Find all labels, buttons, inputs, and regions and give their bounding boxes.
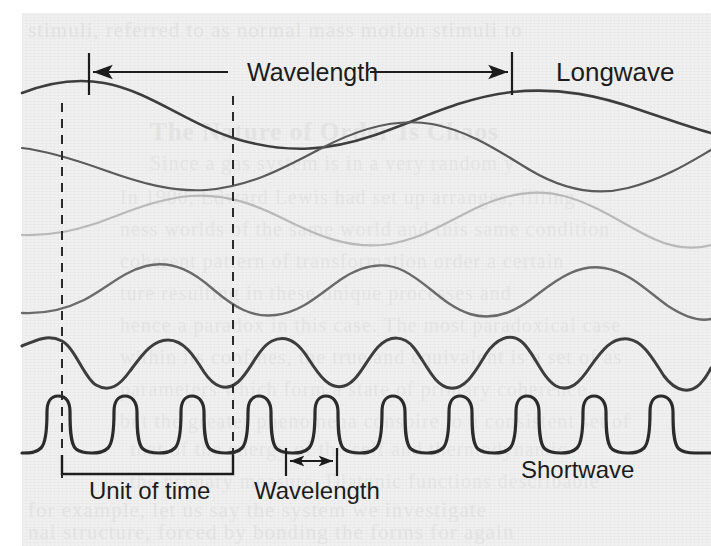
shortwave-label: Shortwave	[521, 456, 634, 484]
longwave-label: Longwave	[556, 57, 675, 88]
wave-1-longwave	[22, 81, 711, 149]
wave-6-shortwave	[22, 396, 711, 453]
unit-of-time-label: Unit of time	[89, 477, 210, 505]
unit-of-time-bracket	[62, 455, 233, 474]
wave-2	[22, 122, 711, 191]
wave-3	[22, 192, 711, 247]
wave-5	[22, 337, 711, 390]
bottom-wavelength-label: Wavelength	[254, 477, 380, 505]
dashed-guide-lines	[62, 96, 233, 478]
top-wavelength-label: Wavelength	[247, 58, 378, 87]
wave-diagram-figure: stimuli, referred to as normal mass moti…	[0, 0, 711, 546]
wave-4	[22, 264, 711, 319]
